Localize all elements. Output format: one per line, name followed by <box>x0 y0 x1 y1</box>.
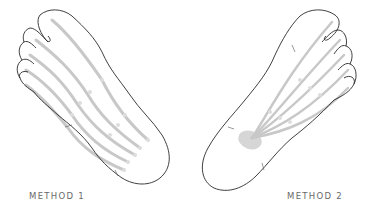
right-foot-outline <box>202 10 356 190</box>
foot-illustrations <box>0 0 375 215</box>
right-foot-method-2 <box>202 10 356 190</box>
method-1-label: METHOD 1 <box>29 191 85 201</box>
left-foot-method-1 <box>17 10 169 184</box>
method-2-label: METHOD 2 <box>287 191 343 201</box>
crease-mark <box>292 45 295 52</box>
crease-mark <box>228 127 234 129</box>
